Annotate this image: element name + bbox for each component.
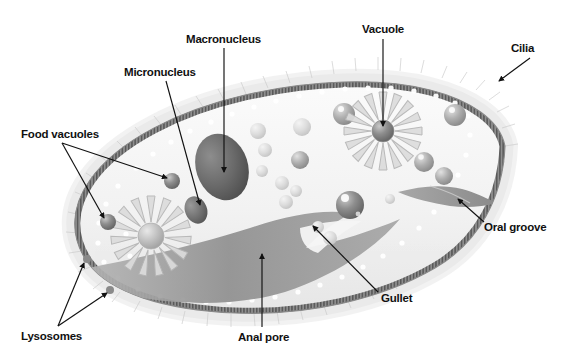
label-food-vacuoles: Food vacuoles xyxy=(21,128,99,140)
label-macronucleus: Macronucleus xyxy=(186,33,261,45)
label-micronucleus: Micronucleus xyxy=(124,66,196,78)
leader-lysosome-1 xyxy=(58,263,84,326)
label-lysosomes: Lysosomes xyxy=(21,330,82,342)
figure-canvas: Macronucleus Micronucleus Vacuole Cilia … xyxy=(0,0,561,361)
label-gullet: Gullet xyxy=(381,292,412,304)
label-oral-groove: Oral groove xyxy=(484,221,546,233)
label-cilia: Cilia xyxy=(511,42,534,54)
paramecium-diagram xyxy=(0,0,561,361)
leader-cilia xyxy=(499,58,530,81)
label-vacuole: Vacuole xyxy=(362,23,404,35)
label-anal-pore: Anal pore xyxy=(238,331,289,343)
